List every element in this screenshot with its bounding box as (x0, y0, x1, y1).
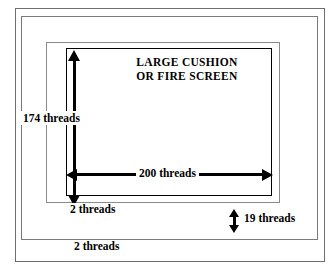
inner-margin-label: 2 threads (69, 203, 116, 215)
diagram-title-line-1: LARGE CUSHION (112, 56, 262, 70)
diagram-title: LARGE CUSHION OR FIRE SCREEN (112, 56, 262, 83)
bottom-margin-label: 2 threads (72, 240, 121, 252)
outer-margin-label: 19 threads (243, 212, 296, 224)
diagram-title-line-2: OR FIRE SCREEN (112, 70, 262, 84)
horizontal-arrow-right-head-icon (262, 169, 273, 181)
outer-margin-arrow-up-head-icon (229, 209, 239, 217)
outer-margin-arrow-down-head-icon (229, 225, 239, 233)
canvas-sizing-diagram: LARGE CUSHION OR FIRE SCREEN 174 threads… (0, 0, 336, 271)
height-measurement-label: 174 threads (21, 111, 82, 125)
width-measurement-label: 200 threads (136, 167, 199, 179)
vertical-arrow-up-head-icon (68, 50, 80, 61)
horizontal-arrow-left-head-icon (66, 169, 77, 181)
